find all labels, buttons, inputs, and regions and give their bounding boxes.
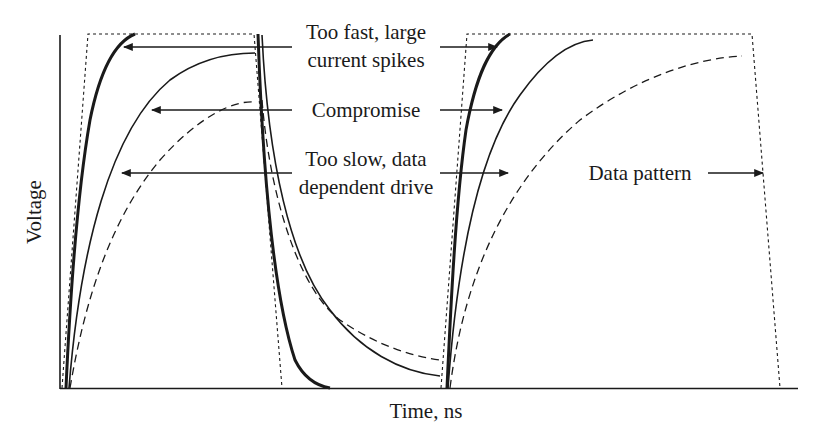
too-slow-label-line1: Too slow, data	[305, 147, 427, 171]
signal-edge-rate-diagram: Too fast, large current spikes Compromis…	[0, 0, 819, 438]
data-pattern-label: Data pattern	[588, 161, 692, 185]
y-axis-label: Voltage	[22, 180, 46, 244]
too-slow-label-line2: dependent drive	[299, 175, 434, 199]
data-pattern-curve	[62, 34, 780, 388]
compromise-label: Compromise	[312, 98, 421, 122]
x-axis-label: Time, ns	[390, 399, 463, 423]
too-fast-label-line2: current spikes	[307, 48, 424, 72]
too-fast-label-line1: Too fast, large	[306, 20, 426, 44]
compromise-curve	[69, 35, 593, 388]
too-fast-curve	[66, 34, 510, 388]
